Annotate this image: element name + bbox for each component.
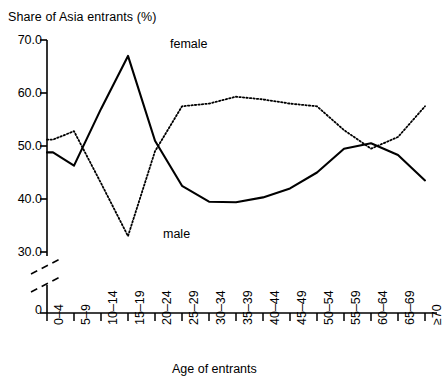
x-axis-caption: Age of entrants [172, 362, 257, 376]
x-axis-tick-label-14: ≥70 [430, 304, 444, 325]
series-line-female [47, 56, 425, 202]
chart-container: Share of Asia entrants (%) 70.0 60.0 50.… [0, 0, 444, 385]
x-axis-tick-label-7: 35–39 [241, 290, 255, 325]
x-axis-tick-label-11: 55–59 [349, 290, 363, 325]
x-axis-tick-label-2: 10–14 [106, 290, 120, 325]
x-axis-tick-label-4: 20–24 [160, 290, 174, 325]
x-axis-tick-label-1: 5–9 [79, 304, 93, 325]
x-axis-tick-label-12: 60–64 [376, 290, 390, 325]
series-annotation-male: male [163, 227, 190, 241]
plot-area [0, 0, 444, 385]
x-axis-tick-label-9: 45–49 [295, 290, 309, 325]
x-axis-ticks [47, 313, 425, 321]
x-axis-tick-label-10: 50–54 [322, 290, 336, 325]
series-line-male [47, 97, 425, 236]
x-axis-tick-label-6: 30–34 [214, 290, 228, 325]
x-axis-tick-label-8: 40–44 [268, 290, 282, 325]
x-axis-tick-label-5: 25–29 [187, 290, 201, 325]
x-axis-tick-label-0: 0–4 [52, 304, 66, 325]
x-axis-tick-label-3: 15–19 [133, 290, 147, 325]
series-annotation-female: female [170, 37, 208, 51]
axis-break-mark-upper [31, 258, 62, 274]
x-axis-tick-label-13: 65–69 [403, 290, 417, 325]
